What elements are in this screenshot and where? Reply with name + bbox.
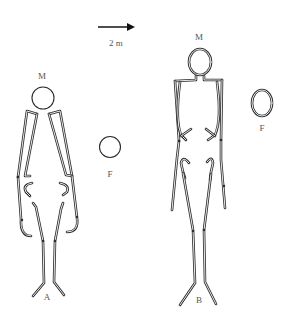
figure-a-right-leg xyxy=(54,203,64,295)
figure-a-label: A xyxy=(44,292,51,302)
figure-a-left-arm xyxy=(17,111,37,236)
figure-a-left-leg xyxy=(33,203,44,296)
figure-a-pelvis-right xyxy=(60,183,68,195)
figure-b: M xyxy=(172,32,225,305)
figure-b-f-marker: F xyxy=(252,90,272,133)
figure-b-f-label: F xyxy=(259,123,264,133)
figure-b-left-leg xyxy=(180,173,195,305)
scale-label: 2 m xyxy=(109,38,123,48)
figure-b-head-label: M xyxy=(195,32,203,42)
figure-a-right-arm xyxy=(49,111,78,232)
figure-a-head xyxy=(32,87,54,109)
figure-b-label: B xyxy=(196,295,202,305)
skeleton-diagram: 2 m M xyxy=(0,0,287,318)
figure-a-head-label: M xyxy=(38,71,46,81)
figure-b-right-leg xyxy=(203,174,216,304)
scale-arrow-icon xyxy=(98,23,135,31)
f-marker-circle xyxy=(100,137,121,158)
figure-a: M xyxy=(17,71,78,302)
figure-a-f-label: F xyxy=(107,169,112,179)
figure-b-left-arm xyxy=(172,81,191,210)
figure-a-f-marker: F xyxy=(100,137,121,180)
